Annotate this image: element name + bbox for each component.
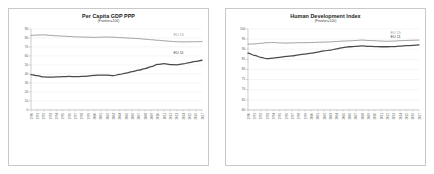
y-axis-tick-label: 60 (25, 54, 29, 58)
x-axis-tick-label: 1993 (266, 112, 270, 119)
x-axis-tick-label: 2001 (317, 112, 321, 119)
x-axis-tick-label: 1997 (291, 112, 295, 119)
x-axis-tick-label: 2010 (157, 112, 161, 119)
x-axis-tick-label: 1995 (62, 112, 66, 119)
panel-frame-left: Per Capita GDP PPP (Frontier=100) 010203… (8, 8, 209, 166)
y-axis-tick-label: 70 (242, 87, 246, 91)
y-axis-tick-label: 30 (25, 81, 29, 85)
x-axis-tick-label: 2000 (93, 112, 97, 119)
series-label-eu-11: EU 11 (174, 51, 184, 55)
y-axis-tick-label: 85 (242, 57, 246, 61)
x-axis-tick-label: 1996 (68, 112, 72, 119)
plot-area-right: 6065707580859095100199019911992199319941… (248, 27, 419, 135)
plot-area-left: 0102030405060708090199019911992199319941… (31, 27, 202, 135)
y-axis-tick-label: 70 (25, 45, 29, 49)
x-axis-tick-label: 1991 (253, 112, 257, 119)
x-axis-tick-label: 2016 (412, 112, 416, 119)
x-axis-tick-label: 1993 (49, 112, 53, 119)
x-axis-tick-label: 1996 (285, 112, 289, 119)
x-axis-tick-label: 2016 (195, 112, 199, 119)
x-axis-tick-label: 2001 (100, 112, 104, 119)
y-axis-tick-label: 60 (242, 108, 246, 112)
x-axis-tick-label: 2008 (361, 112, 365, 119)
y-axis-tick-label: 100 (240, 27, 245, 31)
x-axis-tick-label: 2005 (125, 112, 129, 119)
y-axis-tick-label: 10 (25, 99, 29, 103)
x-axis-tick-label: 2004 (119, 112, 123, 119)
series-label-eu-11: EU 11 (391, 35, 401, 39)
x-axis-tick-label: 2009 (367, 112, 371, 119)
x-axis-tick-label: 1995 (279, 112, 283, 119)
x-axis-tick-label: 2011 (380, 112, 384, 119)
y-axis-tick-label: 80 (242, 67, 246, 71)
x-axis-tick-label: 1992 (260, 112, 264, 119)
x-axis-tick-label: 2007 (138, 112, 142, 119)
x-axis-tick-label: 2004 (336, 112, 340, 119)
x-axis-tick-label: 1999 (304, 112, 308, 119)
x-axis-tick-label: 2000 (310, 112, 314, 119)
panel-human-development-index: Human Development Index (Frontier=100) 6… (217, 0, 434, 174)
x-axis-tick-label: 2015 (188, 112, 192, 119)
convergence-charts-figure: Per Capita GDP PPP (Frontier=100) 010203… (0, 0, 434, 174)
x-axis-tick-label: 1997 (74, 112, 78, 119)
x-axis-tick-label: 2002 (106, 112, 110, 119)
x-axis-tick-label: 1994 (55, 112, 59, 119)
chart-subtitle-right: (Frontier=100) (226, 20, 425, 24)
y-axis-tick-label: 80 (25, 36, 29, 40)
x-axis-tick-label: 2005 (342, 112, 346, 119)
x-axis-tick-label: 2003 (112, 112, 116, 119)
x-axis-tick-label: 1992 (43, 112, 47, 119)
y-axis-tick-label: 40 (25, 72, 29, 76)
x-axis-tick-label: 2013 (393, 112, 397, 119)
x-axis-tick-label: 2003 (329, 112, 333, 119)
x-axis-tick-label: 2014 (399, 112, 403, 119)
x-axis-tick-label: 2017 (418, 112, 422, 119)
series-line-eu-11 (248, 45, 419, 59)
x-axis-tick-label: 2015 (405, 112, 409, 119)
y-axis-tick-label: 20 (25, 90, 29, 94)
x-axis-tick-label: 1990 (247, 112, 251, 119)
series-line-eu-15 (248, 40, 419, 44)
x-axis-tick-label: 1991 (36, 112, 40, 119)
x-axis-tick-label: 2009 (150, 112, 154, 119)
y-axis-tick-label: 90 (242, 47, 246, 51)
y-axis-tick-label: 95 (242, 37, 246, 41)
x-axis-tick-label: 2013 (176, 112, 180, 119)
x-axis-tick-label: 2006 (348, 112, 352, 119)
x-axis-tick-label: 2011 (163, 112, 167, 119)
chart-canvas-left: 0102030405060708090199019911992199319941… (31, 27, 202, 135)
series-label-eu-15: EU 15 (174, 33, 184, 37)
x-axis-tick-label: 2014 (182, 112, 186, 119)
x-axis-tick-label: 2007 (355, 112, 359, 119)
x-axis-tick-label: 2010 (374, 112, 378, 119)
chart-canvas-right: 6065707580859095100199019911992199319941… (248, 27, 419, 135)
series-line-eu-11 (31, 60, 202, 77)
x-axis-tick-label: 2008 (144, 112, 148, 119)
y-axis-tick-label: 50 (25, 63, 29, 67)
y-axis-tick-label: 0 (26, 108, 28, 112)
x-axis-tick-label: 2017 (201, 112, 205, 119)
chart-subtitle-left: (Frontier=100) (9, 20, 208, 24)
x-axis-tick-label: 1999 (87, 112, 91, 119)
x-axis-tick-label: 1994 (272, 112, 276, 119)
x-axis-tick-label: 2012 (169, 112, 173, 119)
x-axis-tick-label: 1998 (81, 112, 85, 119)
y-axis-tick-label: 65 (242, 98, 246, 102)
x-axis-tick-label: 2002 (323, 112, 327, 119)
y-axis-tick-label: 90 (25, 27, 29, 31)
y-axis-tick-label: 75 (242, 77, 246, 81)
x-axis-tick-label: 1990 (30, 112, 34, 119)
panel-per-capita-gdp-ppp: Per Capita GDP PPP (Frontier=100) 010203… (0, 0, 217, 174)
panel-frame-right: Human Development Index (Frontier=100) 6… (225, 8, 426, 166)
x-axis-tick-label: 2012 (386, 112, 390, 119)
x-axis-tick-label: 2006 (131, 112, 135, 119)
x-axis-tick-label: 1998 (298, 112, 302, 119)
